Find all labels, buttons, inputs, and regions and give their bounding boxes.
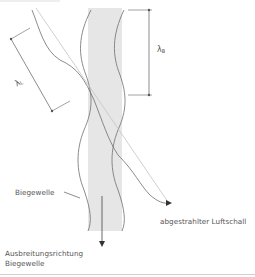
lambda-l-end-bottom — [51, 110, 53, 112]
propagation-direction-label-line1: Ausbreitungsrichtung — [5, 249, 83, 258]
bending-wave-label: Biegewelle — [15, 188, 55, 197]
radiated-sound-arrowhead — [166, 200, 172, 206]
lambda-b-end-bottom — [148, 94, 150, 96]
lambda-l-end-top — [10, 38, 12, 40]
lambda-b-sub: B — [162, 48, 165, 54]
lambda-l-tick-top — [11, 28, 30, 39]
plate — [88, 8, 122, 231]
bending-wave-leader-line — [64, 192, 80, 198]
bending-wave-diagram — [0, 0, 255, 277]
lambda-l-dimension-line — [11, 39, 52, 111]
lambda-l-tick-bottom — [52, 101, 70, 111]
lambda-b-end-top — [148, 9, 150, 11]
lambda-b-label: λB — [157, 45, 165, 54]
radiated-sound-label: abgestrahlter Luftschall — [160, 217, 246, 226]
propagation-direction-arrowhead — [99, 241, 105, 247]
propagation-direction-label-line2: Biegewelle — [5, 259, 45, 268]
bottom-rule — [0, 274, 255, 275]
